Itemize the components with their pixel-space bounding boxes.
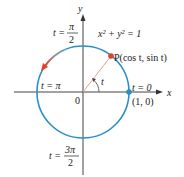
direction-arc <box>45 49 67 66</box>
t-half-pi-label: t = π 2 <box>53 21 78 45</box>
start-point <box>126 89 132 95</box>
point-P <box>108 53 114 59</box>
point-P-label: P(cos t, sin t) <box>114 52 167 64</box>
radius-line <box>83 56 111 92</box>
y-axis-arrow-icon <box>81 14 86 21</box>
unit-circle-figure: y x 0 x² + y² = 1 P(cos t, sin t) t t = … <box>0 0 184 177</box>
y-axis-label: y <box>77 3 83 14</box>
angle-label: t <box>101 76 104 87</box>
svg-text:2: 2 <box>68 157 73 168</box>
svg-text:t =: t = <box>49 150 61 161</box>
svg-text:t =: t = <box>53 27 65 38</box>
t-pi-label: t = π <box>41 80 62 91</box>
t-three-half-pi-label: t = 3π 2 <box>49 144 79 168</box>
svg-text:π: π <box>69 21 75 32</box>
y-axis <box>81 14 86 175</box>
svg-text:2: 2 <box>69 34 74 45</box>
svg-text:3π: 3π <box>64 144 76 155</box>
equation-label: x² + y² = 1 <box>97 28 141 39</box>
t-zero-label: t = 0 <box>132 82 152 93</box>
x-axis-arrow-icon <box>156 90 163 95</box>
start-point-label: (1, 0) <box>132 96 154 108</box>
x-axis-label: x <box>166 87 172 98</box>
origin-label: 0 <box>75 95 80 106</box>
